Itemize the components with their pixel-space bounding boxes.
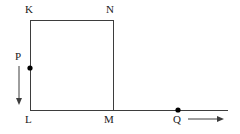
arrow-right-at-Q: [188, 116, 224, 122]
vertex-label-L: L: [25, 114, 32, 125]
square-edges: [30, 20, 228, 110]
vertex-label-K: K: [25, 4, 33, 15]
figure-canvas: [0, 0, 240, 134]
arrow-right-head-icon: [217, 116, 224, 122]
vertex-label-Q: Q: [173, 114, 181, 125]
point-Q: [175, 107, 180, 112]
vertex-label-N: N: [106, 4, 114, 15]
arrow-down-at-P: [16, 66, 22, 105]
vertex-label-M: M: [104, 114, 114, 125]
vertex-label-P: P: [15, 51, 21, 62]
point-P: [27, 65, 32, 70]
marked-points: [27, 65, 180, 112]
geometry-figure: K N P L M Q: [0, 0, 240, 134]
arrow-down-head-icon: [16, 98, 22, 105]
